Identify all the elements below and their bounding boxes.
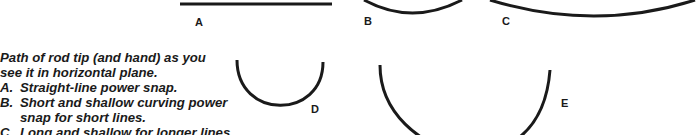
figure-caption: Path of rod tip (and hand) as you see it… <box>0 50 245 135</box>
path-c-long-arc <box>490 0 695 16</box>
caption-item-text: Short and shallow curving power <box>20 95 227 110</box>
path-e-large-arc <box>380 65 550 135</box>
caption-item-c: C. Long and shallow for longer lines <box>0 125 245 135</box>
caption-item-key: C. <box>0 125 20 135</box>
label-e: E <box>561 98 568 109</box>
label-d: D <box>311 104 319 115</box>
caption-item-text: snap for short lines. <box>20 110 146 125</box>
caption-indent <box>0 110 20 125</box>
caption-item-b: B. Short and shallow curving power <box>0 95 245 110</box>
caption-item-a: A. Straight-line power snap. <box>0 80 245 95</box>
caption-item-key: B. <box>0 95 20 110</box>
caption-item-text: Long and shallow for longer lines <box>20 125 230 135</box>
caption-item-text: Straight-line power snap. <box>20 80 178 95</box>
caption-intro-line-2: see it in horizontal plane. <box>0 65 245 80</box>
caption-intro-line-1: Path of rod tip (and hand) as you <box>0 50 245 65</box>
caption-item-key: A. <box>0 80 20 95</box>
caption-item-b-cont: snap for short lines. <box>0 110 245 125</box>
label-a: A <box>195 17 203 28</box>
label-b: B <box>364 16 372 27</box>
label-c: C <box>502 16 510 27</box>
path-b-short-arc <box>364 0 462 13</box>
path-d-semicircle <box>237 60 323 105</box>
